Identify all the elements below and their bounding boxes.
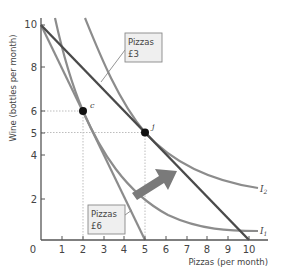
x-tick-labels: 0 1 2 3 4 5 6 7 8 9 10: [30, 244, 256, 255]
point-j: [141, 129, 149, 137]
label-box-pizzas-6: Pizzas £6: [88, 205, 125, 234]
point-c: [79, 107, 87, 115]
x-tick-label: 8: [204, 244, 210, 255]
y-tick-label: 6: [31, 106, 37, 117]
x-tick-label: 1: [59, 244, 65, 255]
x-tick-label: 9: [225, 244, 231, 255]
x-tick-label: 2: [80, 244, 86, 255]
y-tick-label: 8: [31, 62, 37, 73]
curve-label-i2: I2: [259, 184, 268, 195]
y-tick-label: 5: [31, 128, 37, 139]
svg-text:I1: I1: [259, 226, 267, 237]
box-pizzas-3-line1: Pizzas: [128, 37, 154, 47]
x-tick-label: 10: [243, 244, 256, 255]
curve-i2-subscript: 2: [263, 188, 268, 195]
box-pizzas-6-line1: Pizzas: [91, 209, 117, 219]
point-c-label: c: [90, 101, 95, 110]
y-tick-labels: 10 8 6 5 4 2: [24, 19, 37, 205]
y-tick-label: 4: [31, 150, 37, 161]
label-box-pizzas-3: Pizzas £3: [125, 33, 162, 62]
x-tick-label: 4: [121, 244, 127, 255]
x-axis-title: Pizzas (per month): [188, 257, 268, 267]
curve-label-i1: I1: [259, 226, 267, 237]
x-tick-label: 7: [184, 244, 190, 255]
chart: 10 8 6 5 4 2 0 1 2 3 4 5 6 7 8 9 10 Pizz…: [0, 0, 281, 278]
box-pizzas-3-line2: £3: [128, 49, 139, 59]
y-tick-label: 2: [31, 194, 37, 205]
shift-arrow-icon: [132, 169, 177, 200]
curve-i1-subscript: 1: [264, 230, 268, 237]
x-tick-label: 5: [142, 244, 148, 255]
y-tick-label: 10: [24, 19, 37, 30]
x-tick-label: 6: [163, 244, 169, 255]
svg-text:I2: I2: [259, 184, 268, 195]
y-axis-title: Wine (bottles per month): [8, 35, 18, 142]
origin-label: 0: [30, 244, 36, 255]
x-tick-label: 3: [101, 244, 107, 255]
point-j-label: j: [150, 122, 155, 131]
box-pizzas-6-line2: £6: [91, 221, 102, 231]
